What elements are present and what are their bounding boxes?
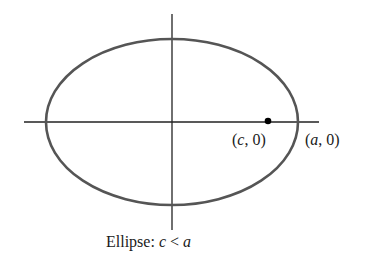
- vertex-label: (a, 0): [305, 131, 340, 149]
- focus-point: [265, 118, 272, 125]
- ellipse-diagram: (c, 0) (a, 0) Ellipse: c < a: [0, 0, 371, 256]
- caption: Ellipse: c < a: [106, 233, 191, 251]
- focus-label: (c, 0): [232, 131, 266, 149]
